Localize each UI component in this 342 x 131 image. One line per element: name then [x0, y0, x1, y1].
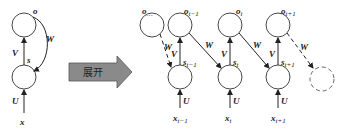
- folded-w-label: W: [46, 34, 55, 44]
- output-node-t: [218, 13, 242, 37]
- hidden-label-t: st: [232, 57, 240, 69]
- u-label-t: U: [233, 96, 240, 106]
- input-label-t: xt: [224, 113, 233, 125]
- hidden-node-next-dashed: [310, 67, 334, 91]
- output-label-t-plus-1: ot+1: [281, 6, 296, 18]
- folded-x-label: x: [19, 117, 25, 127]
- hidden-label-t-plus-1: st+1: [280, 57, 295, 69]
- v-label-t-plus-1: V: [269, 49, 276, 59]
- w-label-t-minus-1: W: [205, 40, 214, 50]
- v-label-t-minus-1: V: [171, 49, 178, 59]
- u-label-t-plus-1: U: [281, 96, 288, 106]
- folded-output-node: [12, 13, 36, 37]
- unfold-arrow: 展开: [69, 56, 132, 88]
- unfolded-rnn: o… ot−1 ot ot+1 st−1 st st+1 xt−1 xt xt+…: [140, 6, 334, 125]
- folded-o-label: o: [33, 6, 38, 16]
- folded-w-loop: [33, 17, 47, 71]
- unfold-arrow-label: 展开: [83, 67, 103, 78]
- output-label-t: ot: [236, 6, 244, 18]
- folded-hidden-node: [12, 65, 36, 89]
- input-label-t-plus-1: xt+1: [270, 113, 286, 125]
- input-label-t-minus-1: xt−1: [172, 113, 188, 125]
- w-label-t-plus-1: W: [300, 42, 309, 52]
- w-label-t: W: [253, 40, 262, 50]
- w-edge-t: [239, 33, 269, 68]
- folded-rnn: o s x V U W: [12, 6, 55, 127]
- folded-u-label: U: [12, 96, 19, 106]
- rnn-unfold-diagram: o s x V U W 展开 o…: [0, 0, 342, 131]
- w-label-prev: W: [164, 42, 173, 52]
- folded-s-label: s: [26, 55, 31, 65]
- u-label-t-minus-1: U: [183, 96, 190, 106]
- output-label-t-minus-1: ot−1: [184, 6, 199, 18]
- v-label-t: V: [221, 49, 228, 59]
- hidden-label-t-minus-1: st−1: [182, 57, 197, 69]
- folded-v-label: V: [12, 48, 19, 58]
